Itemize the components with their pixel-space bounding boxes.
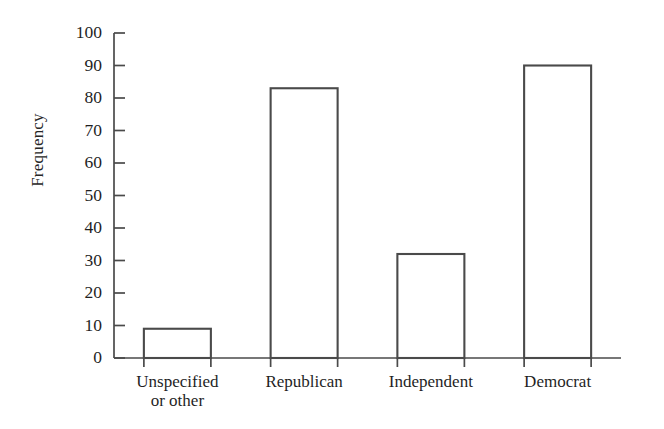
- y-tick-label-50: 50: [56, 187, 102, 205]
- y-tick-label-60: 60: [56, 154, 102, 172]
- y-tick-label-40: 40: [56, 219, 102, 237]
- bar-2: [271, 88, 338, 358]
- y-tick-label-0: 0: [56, 349, 102, 367]
- bar-chart-figure: Frequency 0102030405060708090100Unspecif…: [0, 0, 664, 429]
- y-tick-label-30: 30: [56, 252, 102, 270]
- y-tick-label-100: 100: [56, 24, 102, 42]
- y-tick-label-90: 90: [56, 57, 102, 75]
- bar-3: [397, 254, 464, 358]
- plot-area: 0102030405060708090100Unspecified or oth…: [0, 0, 664, 429]
- x-tick-label-4: Democrat: [479, 372, 636, 391]
- y-tick-label-80: 80: [56, 89, 102, 107]
- y-tick-label-20: 20: [56, 284, 102, 302]
- y-tick-label-70: 70: [56, 122, 102, 140]
- bar-1: [144, 329, 211, 358]
- y-tick-label-10: 10: [56, 317, 102, 335]
- bar-4: [524, 66, 591, 359]
